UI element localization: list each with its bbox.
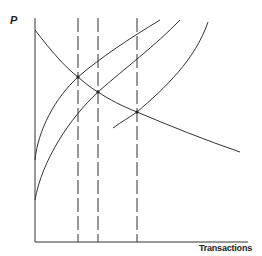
supply-demand-diagram [0,0,262,256]
equilibrium-point-2 [96,90,99,93]
x-axis-label: Transactions [199,243,252,253]
equilibrium-point-1 [76,75,79,78]
equilibrium-point-3 [135,110,138,113]
y-axis-label: P [10,14,17,26]
supply-curve-2 [35,20,180,200]
supply-curve-3 [113,22,208,128]
